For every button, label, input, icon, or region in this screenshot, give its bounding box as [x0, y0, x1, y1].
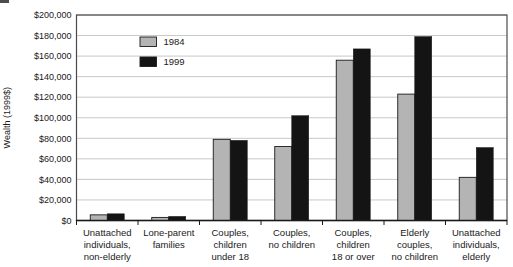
y-tick-label: $180,000: [34, 31, 72, 41]
bar-1999-0: [107, 214, 124, 221]
y-tick-label: $200,000: [34, 10, 72, 20]
category-label-3-line-0: Couples,: [273, 227, 311, 238]
category-label-6-line-1: individuals,: [453, 239, 500, 250]
bar-1984-3: [275, 147, 292, 221]
bar-1999-5: [415, 37, 432, 221]
category-label-6-line-2: elderly: [462, 251, 490, 262]
category-label-2-line-1: children: [214, 239, 247, 250]
bar-1999-6: [476, 148, 493, 221]
bar-1984-2: [213, 139, 230, 220]
bar-1984-0: [90, 215, 107, 221]
category-label-0-line-2: non-elderly: [84, 251, 131, 262]
y-tick-label: $120,000: [34, 92, 72, 102]
bar-1999-2: [230, 140, 247, 220]
legend-label-1984: 1984: [164, 36, 185, 47]
category-label-3-line-1: no children: [269, 239, 315, 250]
category-label-2-line-0: Couples,: [212, 227, 250, 238]
category-label-5-line-1: couples,: [397, 239, 432, 250]
bar-1984-5: [398, 94, 415, 220]
bar-1999-3: [292, 116, 309, 221]
legend-label-1999: 1999: [164, 56, 185, 67]
category-label-4-line-1: children: [337, 239, 370, 250]
chart-canvas: 19841999$0$20,000$40,000$60,000$80,000$1…: [0, 0, 513, 267]
bar-1984-6: [459, 177, 476, 220]
y-tick-label: $140,000: [34, 72, 72, 82]
legend-swatch-1984: [140, 37, 157, 47]
category-label-1-line-1: families: [153, 239, 185, 250]
y-axis-label: Wealth (1999$): [2, 87, 12, 148]
y-tick-label: $60,000: [39, 154, 72, 164]
category-label-6-line-0: Unattached: [452, 227, 501, 238]
category-label-4-line-2: 18 or over: [332, 251, 375, 262]
category-label-5-line-2: no children: [392, 251, 438, 262]
category-label-4-line-0: Couples,: [335, 227, 373, 238]
y-tick-label: $20,000: [39, 195, 72, 205]
y-tick-label: $100,000: [34, 113, 72, 123]
bar-1999-4: [353, 49, 370, 221]
category-label-1-line-0: Lone-parent: [143, 227, 195, 238]
bar-1984-4: [336, 60, 353, 220]
category-label-0-line-1: individuals,: [84, 239, 131, 250]
y-tick-label: $80,000: [39, 134, 72, 144]
wealth-bar-chart: 19841999$0$20,000$40,000$60,000$80,000$1…: [0, 0, 513, 267]
y-tick-label: $40,000: [39, 175, 72, 185]
category-label-5-line-0: Elderly: [400, 227, 429, 238]
y-tick-label: $0: [61, 216, 71, 226]
category-label-2-line-2: under 18: [211, 251, 249, 262]
category-label-0-line-0: Unattached: [83, 227, 132, 238]
legend-swatch-1999: [140, 57, 157, 67]
y-tick-label: $160,000: [34, 51, 72, 61]
corner-artifact: [0, 0, 9, 3]
